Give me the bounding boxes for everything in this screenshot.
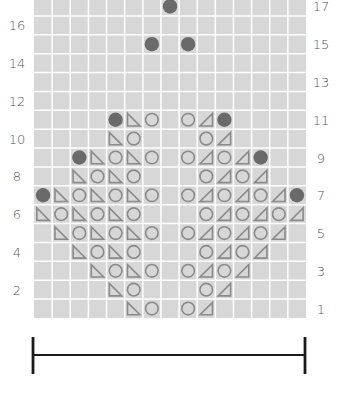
row-number-label: 17 <box>313 0 330 13</box>
bobble-icon <box>108 113 122 127</box>
row-number-label: 8 <box>13 170 21 183</box>
row-number-label: 10 <box>9 132 26 145</box>
row-number-label: 2 <box>13 283 21 296</box>
row-number-label: 11 <box>313 113 330 126</box>
bobble-icon <box>253 150 267 164</box>
row-number-label: 14 <box>9 57 26 70</box>
row-number-label: 1 <box>317 302 325 315</box>
row-number-label: 12 <box>9 94 26 107</box>
row-number-label: 16 <box>9 19 26 32</box>
knitting-chart: 161412108642 1715131197531 <box>0 0 338 393</box>
row-number-label: 7 <box>317 189 325 202</box>
chart-grid <box>0 0 338 393</box>
row-number-label: 3 <box>317 264 325 277</box>
bobble-icon <box>217 113 231 127</box>
bobble-icon <box>290 188 304 202</box>
row-number-label: 5 <box>317 227 325 240</box>
bobble-icon <box>72 150 86 164</box>
row-number-label: 6 <box>13 208 21 221</box>
bobble-icon <box>36 188 50 202</box>
row-number-label: 4 <box>13 245 21 258</box>
row-number-label: 9 <box>317 151 325 164</box>
bobble-icon <box>145 37 159 51</box>
row-number-label: 13 <box>313 75 330 88</box>
bobble-icon <box>181 37 195 51</box>
row-number-label: 15 <box>313 38 330 51</box>
